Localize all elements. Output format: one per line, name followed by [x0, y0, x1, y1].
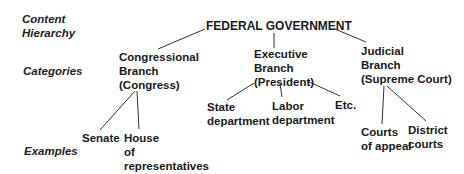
node-line: department: [272, 113, 335, 127]
node-line: Branch: [119, 64, 199, 78]
node-line: (Congress): [119, 78, 199, 92]
label-line: Content: [22, 12, 75, 26]
node-line: State: [207, 100, 270, 114]
level-label-examples: Examples: [24, 144, 78, 158]
example-senate: Senate: [82, 131, 120, 145]
node-line: representatives: [124, 159, 209, 173]
node-line: Courts: [361, 125, 411, 139]
node-line: of: [124, 145, 209, 159]
branch-judicial: Judicial Branch (Supreme Court): [361, 44, 452, 86]
example-district-courts: District courts: [408, 123, 448, 151]
branch-congressional: Congressional Branch (Congress): [119, 50, 199, 92]
node-line: Branch: [361, 58, 452, 72]
node-line: Labor: [272, 99, 335, 113]
node-line: Congressional: [119, 50, 199, 64]
branch-executive: Executive Branch (President): [254, 47, 314, 89]
node-line: Branch: [254, 61, 314, 75]
node-line: courts: [408, 137, 448, 151]
node-line: (Supreme Court): [361, 72, 452, 86]
example-courts-of-appeal: Courts of appeal: [361, 125, 411, 153]
node-line: Executive: [254, 47, 314, 61]
node-line: (President): [254, 75, 314, 89]
node-line: department: [207, 114, 270, 128]
label-line: Hierarchy: [22, 26, 75, 40]
node-line: District: [408, 123, 448, 137]
level-label-content-hierarchy: Content Hierarchy: [22, 12, 75, 40]
level-label-categories: Categories: [23, 64, 82, 78]
example-state-department: State department: [207, 100, 270, 128]
node-line: Judicial: [361, 44, 452, 58]
node-line: of appeal: [361, 139, 411, 153]
example-etc: Etc.: [335, 98, 356, 112]
root-node: FEDERAL GOVERNMENT: [206, 19, 352, 33]
example-labor-department: Labor department: [272, 99, 335, 127]
node-line: House: [124, 131, 209, 145]
example-house: House of representatives: [124, 131, 209, 173]
